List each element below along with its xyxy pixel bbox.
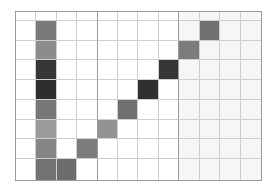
empty-cell <box>118 12 138 21</box>
filled-cell <box>36 159 56 180</box>
empty-cell <box>159 139 179 159</box>
empty-cell <box>159 100 179 120</box>
empty-cell <box>220 100 240 120</box>
empty-cell <box>118 21 138 41</box>
empty-cell <box>98 12 118 21</box>
empty-cell <box>200 12 220 21</box>
pixel-grid <box>15 11 262 181</box>
empty-cell <box>16 100 36 120</box>
empty-cell <box>159 159 179 180</box>
empty-cell <box>118 120 138 140</box>
empty-cell <box>57 41 77 61</box>
empty-cell <box>36 12 56 21</box>
empty-cell <box>179 21 199 41</box>
empty-cell <box>77 80 97 100</box>
empty-cell <box>16 80 36 100</box>
empty-cell <box>118 159 138 180</box>
empty-cell <box>118 139 138 159</box>
empty-cell <box>220 159 240 180</box>
empty-cell <box>200 41 220 61</box>
empty-cell <box>159 21 179 41</box>
empty-cell <box>241 60 261 80</box>
empty-cell <box>200 100 220 120</box>
empty-cell <box>220 80 240 100</box>
empty-cell <box>98 139 118 159</box>
empty-cell <box>179 60 199 80</box>
empty-cell <box>98 159 118 180</box>
empty-cell <box>118 41 138 61</box>
empty-cell <box>200 80 220 100</box>
empty-cell <box>138 21 158 41</box>
empty-cell <box>179 100 199 120</box>
filled-cell <box>36 100 56 120</box>
empty-cell <box>77 159 97 180</box>
empty-cell <box>200 159 220 180</box>
filled-cell <box>159 60 179 80</box>
empty-cell <box>77 120 97 140</box>
empty-cell <box>179 12 199 21</box>
empty-cell <box>220 139 240 159</box>
empty-cell <box>159 41 179 61</box>
empty-cell <box>179 139 199 159</box>
empty-cell <box>159 120 179 140</box>
empty-cell <box>138 41 158 61</box>
empty-cell <box>220 12 240 21</box>
filled-cell <box>36 21 56 41</box>
empty-cell <box>159 12 179 21</box>
empty-cell <box>57 60 77 80</box>
empty-cell <box>159 80 179 100</box>
empty-cell <box>179 120 199 140</box>
empty-cell <box>77 41 97 61</box>
empty-cell <box>138 60 158 80</box>
empty-cell <box>241 120 261 140</box>
empty-cell <box>98 41 118 61</box>
filled-cell <box>36 120 56 140</box>
empty-cell <box>98 100 118 120</box>
empty-cell <box>179 80 199 100</box>
empty-cell <box>220 60 240 80</box>
filled-cell <box>36 80 56 100</box>
filled-cell <box>36 41 56 61</box>
empty-cell <box>57 120 77 140</box>
empty-cell <box>98 21 118 41</box>
empty-cell <box>179 159 199 180</box>
empty-cell <box>77 60 97 80</box>
filled-cell <box>200 21 220 41</box>
empty-cell <box>57 21 77 41</box>
empty-cell <box>220 21 240 41</box>
empty-cell <box>241 12 261 21</box>
empty-cell <box>16 21 36 41</box>
empty-cell <box>98 60 118 80</box>
empty-cell <box>138 100 158 120</box>
empty-cell <box>138 139 158 159</box>
empty-cell <box>241 41 261 61</box>
filled-cell <box>179 41 199 61</box>
empty-cell <box>138 12 158 21</box>
empty-cell <box>16 41 36 61</box>
empty-cell <box>200 60 220 80</box>
filled-cell <box>138 80 158 100</box>
empty-cell <box>138 159 158 180</box>
empty-cell <box>138 120 158 140</box>
empty-cell <box>118 80 138 100</box>
empty-cell <box>77 100 97 120</box>
empty-cell <box>220 120 240 140</box>
empty-cell <box>77 21 97 41</box>
empty-cell <box>241 21 261 41</box>
filled-cell <box>57 159 77 180</box>
empty-cell <box>57 80 77 100</box>
empty-cell <box>241 100 261 120</box>
empty-cell <box>57 100 77 120</box>
empty-cell <box>16 120 36 140</box>
empty-cell <box>16 60 36 80</box>
filled-cell <box>118 100 138 120</box>
empty-cell <box>57 139 77 159</box>
empty-cell <box>16 139 36 159</box>
empty-cell <box>241 80 261 100</box>
empty-cell <box>98 80 118 100</box>
empty-cell <box>16 12 36 21</box>
empty-cell <box>118 60 138 80</box>
empty-cell <box>16 159 36 180</box>
empty-cell <box>200 139 220 159</box>
filled-cell <box>36 60 56 80</box>
